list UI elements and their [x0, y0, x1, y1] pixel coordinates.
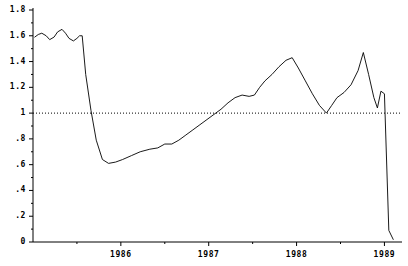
y-axis-tick-label: 1.4 [0, 57, 26, 66]
y-axis-tick-label: 1.8 [0, 5, 26, 14]
axes-group [33, 8, 402, 242]
x-axis-tick-label: 1988 [277, 250, 317, 259]
data-series-line [35, 29, 393, 239]
y-axis-tick-label: .8 [0, 134, 26, 143]
x-axis-tick-label: 1987 [189, 250, 229, 259]
y-axis-tick-label: .4 [0, 185, 26, 194]
y-axis-tick-label: .6 [0, 160, 26, 169]
chart-plot-area [0, 0, 408, 266]
y-axis-tick-label: .2 [0, 211, 26, 220]
y-axis-tick-label: 1 [0, 108, 26, 117]
y-axis-tick-label: 1.6 [0, 31, 26, 40]
chart-container: 0.2.4.6.811.21.41.61.8 1986198719881989 [0, 0, 408, 266]
x-axis-tick-label: 1989 [364, 250, 404, 259]
y-axis-tick-label: 1.2 [0, 82, 26, 91]
y-axis-tick-label: 0 [0, 237, 26, 246]
x-axis-tick-label: 1986 [101, 250, 141, 259]
